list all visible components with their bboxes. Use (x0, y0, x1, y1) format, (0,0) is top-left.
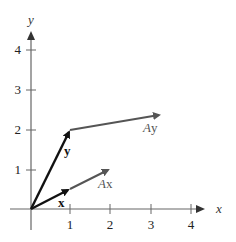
vector-x-label: x (58, 195, 65, 210)
vector-Ay-label: Ay (142, 120, 158, 135)
y-tick-label-4: 4 (15, 42, 22, 57)
x-tick-label-2: 2 (107, 217, 114, 232)
vector-transformation-diagram: 1 2 3 4 x 1 2 3 4 y x y Ax Ay (0, 0, 236, 242)
x-tick-label-3: 3 (148, 217, 155, 232)
y-axis: 1 2 3 4 y (15, 12, 37, 230)
vector-Ax-label: Ax (97, 176, 113, 191)
vector-y-label: y (64, 143, 71, 158)
y-axis-label: y (26, 12, 34, 27)
y-tick-label-1: 1 (15, 162, 22, 177)
x-tick-label-1: 1 (67, 217, 74, 232)
x-axis: 1 2 3 4 x (10, 201, 222, 232)
y-tick-label-3: 3 (15, 82, 22, 97)
x-tick-label-4: 4 (188, 217, 195, 232)
x-axis-label: x (215, 201, 222, 216)
y-tick-label-2: 2 (15, 122, 22, 137)
